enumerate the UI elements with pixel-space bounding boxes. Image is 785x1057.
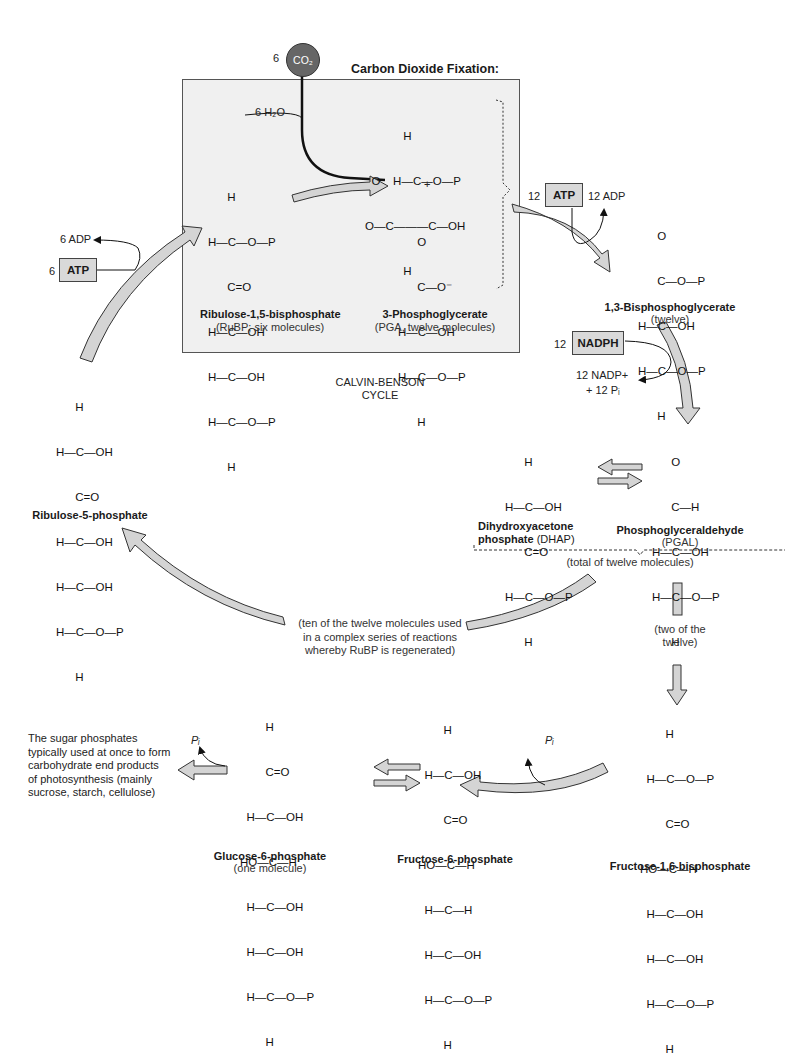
structure-row: C=O xyxy=(640,817,714,832)
cycle-label-line1: CALVIN-BENSON xyxy=(335,376,424,388)
structure-row: H—C—O—P xyxy=(208,415,276,430)
structure-row: H xyxy=(418,723,492,738)
structure-row: H—C—O—P xyxy=(638,364,706,379)
structure-row: H xyxy=(208,190,276,205)
end-products-line: of photosynthesis (mainly xyxy=(28,773,178,787)
structure-row: H—C—O—P xyxy=(418,993,492,1008)
structure-row: H—C—OH xyxy=(640,952,714,967)
structure-row: H xyxy=(365,129,465,144)
fixation-title: Carbon Dioxide Fixation: xyxy=(351,62,499,76)
end-products-note: The sugar phosphates typically used at o… xyxy=(28,732,178,800)
dhap-name-line2: phosphate xyxy=(478,533,534,545)
nadp-label: 12 NADP+ xyxy=(576,369,628,381)
structure-row: H—C—O—P xyxy=(208,235,276,250)
structure-row: H—C—O—P xyxy=(240,990,314,1005)
total-molecules-note: (total of twelve molecules) xyxy=(560,556,700,568)
structure-row: C=O xyxy=(208,280,276,295)
dhap-name-line1: Dihydroxyacetone xyxy=(478,520,573,532)
structure-row: H—C—O—P xyxy=(56,625,124,640)
pga-name: 3-Phosphoglycerate xyxy=(370,308,500,320)
two-of-twelve-note: (two of the twelve) xyxy=(640,623,720,649)
structure-row: H—C—OH xyxy=(240,810,314,825)
structure-row: O xyxy=(398,235,466,250)
nadph-chip: NADPH xyxy=(572,331,624,355)
structure-row: H—C—OH xyxy=(418,948,492,963)
structure-row: H—C—OH xyxy=(56,580,124,595)
structure-row: H—C—O—P xyxy=(640,772,714,787)
structure-row: H—C—OH xyxy=(640,907,714,922)
pi-f16bp: Pᵢ xyxy=(545,734,554,746)
f6p-name: Fructose-6-phosphate xyxy=(385,853,525,865)
f16bp-name: Fructose-1,6-bisphosphate xyxy=(600,860,760,872)
g6p-note: (one molecule) xyxy=(200,862,340,874)
structure-row: H—C—O—P xyxy=(505,590,573,605)
ru5p-name: Ribulose-5-phosphate xyxy=(20,509,160,521)
dhap-label: Dihydroxyacetone phosphate (DHAP) xyxy=(478,520,598,546)
structure-row: C=O xyxy=(418,813,492,828)
structure-row: H xyxy=(56,400,124,415)
water-label: 6 H₂O xyxy=(255,106,285,118)
structure-row: H xyxy=(505,635,573,650)
regeneration-line2: in a complex series of reactions xyxy=(303,631,457,643)
atp-left-coefficient: 6 xyxy=(49,265,55,277)
structure-row: H—C—OH xyxy=(505,500,573,515)
pi-g6p: Pᵢ xyxy=(191,734,200,746)
structure-row: H—C—OH xyxy=(56,535,124,550)
structure-row: H—C—OH xyxy=(240,900,314,915)
pgal-note: (PGAL) xyxy=(610,536,750,548)
end-products-line: typically used at once to form xyxy=(28,746,178,760)
plus-sign: + xyxy=(424,178,430,190)
structure-row: H—C—O—P xyxy=(640,997,714,1012)
f6p-structure: H H—C—OH C=O HO—C—H H—C—H H—C—OH H—C—O—P… xyxy=(418,693,492,1057)
end-products-line: carbohydrate end products xyxy=(28,759,178,773)
structure-row: H—C—O—P xyxy=(652,590,720,605)
structure-row: H—C—OH xyxy=(56,445,124,460)
cycle-label-line2: CYCLE xyxy=(362,389,399,401)
co2-coefficient: 6 xyxy=(273,52,279,64)
structure-row: C=O xyxy=(56,490,124,505)
structure-row: H—C—OH xyxy=(240,945,314,960)
structure-row: H xyxy=(240,1035,314,1050)
structure-row: H xyxy=(56,670,124,685)
regeneration-line1: (ten of the twelve molecules used xyxy=(298,617,461,629)
rubp-name: Ribulose-1,5-bisphosphate xyxy=(200,308,340,320)
regeneration-note: (ten of the twelve molecules used in a c… xyxy=(290,617,470,658)
atp-right-chip: ATP xyxy=(545,183,583,207)
two-of-twelve-line2: twelve) xyxy=(663,636,698,648)
rubp-note: (RuBP; six molecules) xyxy=(200,321,340,333)
structure-row: O H—C—O—P xyxy=(365,174,465,189)
adp-left-label: 6 ADP xyxy=(60,233,91,245)
structure-row: H xyxy=(640,1042,714,1057)
structure-row: H xyxy=(398,415,466,430)
atp-left-chip: ATP xyxy=(59,258,97,282)
structure-row: H xyxy=(505,455,573,470)
nadph-coefficient: 12 xyxy=(554,338,566,350)
two-of-twelve-line1: (two of the xyxy=(654,623,705,635)
structure-row: C—O—P xyxy=(638,274,706,289)
structure-row: H—C—OH xyxy=(208,370,276,385)
pgal-name: Phosphoglyceraldehyde xyxy=(610,524,750,536)
structure-row: O xyxy=(652,455,720,470)
structure-row: H xyxy=(418,1038,492,1053)
structure-row: C—H xyxy=(652,500,720,515)
structure-row: H xyxy=(638,409,706,424)
end-products-line: sucrose, starch, cellulose) xyxy=(28,786,178,800)
structure-row: H xyxy=(240,720,314,735)
structure-row: H xyxy=(640,727,714,742)
adp-right-label: 12 ADP xyxy=(588,190,625,202)
pga-note: (PGA, twelve molecules) xyxy=(370,321,500,333)
regeneration-line3: whereby RuBP is regenerated) xyxy=(305,644,455,656)
co2-circle: CO₂ xyxy=(286,43,320,77)
f16bp-structure: H H—C—O—P C=O HO—C—H H—C—OH H—C—OH H—C—O… xyxy=(640,697,714,1057)
structure-row: H—C—OH xyxy=(418,768,492,783)
cycle-label: CALVIN-BENSON CYCLE xyxy=(320,376,440,402)
end-products-line: The sugar phosphates xyxy=(28,732,178,746)
ru5p-structure: H H—C—OH C=O H—C—OH H—C—OH H—C—O—P H xyxy=(56,370,124,700)
structure-row: H—C—H xyxy=(418,903,492,918)
structure-row: C=O xyxy=(240,765,314,780)
structure-row: H xyxy=(208,460,276,475)
structure-row: C—O⁻ xyxy=(398,280,466,295)
g6p-name: Glucose-6-phosphate xyxy=(200,850,340,862)
bpg-note: (twelve) xyxy=(600,313,740,325)
structure-row: O xyxy=(638,229,706,244)
